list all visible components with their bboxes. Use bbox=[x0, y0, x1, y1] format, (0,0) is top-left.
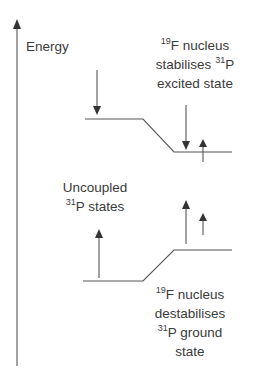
excited-state-level bbox=[85, 119, 232, 152]
arrow-up-head-icon bbox=[182, 200, 190, 209]
axis-arrowhead-icon bbox=[13, 19, 21, 29]
arrow-up-head-icon bbox=[95, 229, 103, 238]
ground-state-level bbox=[83, 250, 232, 281]
arrow-down-head-icon bbox=[182, 141, 190, 150]
arrow-down-head-icon bbox=[93, 106, 101, 115]
arrow-up-head-icon bbox=[199, 139, 207, 147]
label-uncoupled-states: Uncoupled 31P states bbox=[45, 178, 145, 216]
label-ground-state-destabilised: 19F nucleus destabilises 31P ground stat… bbox=[140, 285, 240, 361]
axis-label: Energy bbox=[26, 37, 69, 56]
label-excited-state-stabilised: 19F nucleus stabilises 31P excited state bbox=[140, 36, 250, 93]
arrow-up-head-icon bbox=[199, 213, 207, 221]
